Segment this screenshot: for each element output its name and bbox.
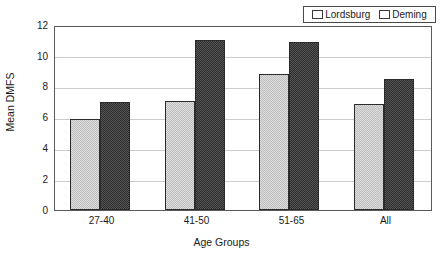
legend-label-lordsburg: Lordsburg xyxy=(325,9,370,20)
plot-area xyxy=(54,26,432,211)
x-tick-41-50: 41-50 xyxy=(149,215,244,226)
y-tick-0: 0 xyxy=(4,206,48,216)
bar-group xyxy=(354,27,414,210)
y-tick-2: 2 xyxy=(4,175,48,185)
y-axis-title: Mean DMFS xyxy=(4,56,16,148)
bar-group xyxy=(70,27,130,210)
bar-group xyxy=(259,27,319,210)
y-tick-12: 12 xyxy=(4,21,48,31)
bar-deming-51-65 xyxy=(289,42,319,210)
legend-item-lordsburg: Lordsburg xyxy=(312,9,370,20)
bar-deming-41-50 xyxy=(195,40,225,210)
legend-item-deming: Deming xyxy=(379,9,426,20)
bar-lordsburg-51-65 xyxy=(259,74,289,210)
legend-swatch-lordsburg xyxy=(312,10,323,19)
bar-lordsburg-27-40 xyxy=(70,119,100,210)
bar-lordsburg-all xyxy=(354,104,384,210)
legend-label-deming: Deming xyxy=(392,9,426,20)
bar-deming-all xyxy=(384,79,414,210)
x-tick-27-40: 27-40 xyxy=(54,215,149,226)
bars-layer xyxy=(55,27,431,210)
bar-deming-27-40 xyxy=(100,102,130,210)
bar-lordsburg-41-50 xyxy=(165,101,195,210)
bar-chart: Lordsburg Deming 12 10 8 6 4 2 0 Mean DM… xyxy=(0,0,443,262)
legend-swatch-deming xyxy=(379,10,390,19)
bar-group xyxy=(165,27,225,210)
x-tick-all: All xyxy=(339,215,432,226)
x-tick-51-65: 51-65 xyxy=(244,215,339,226)
chart-legend: Lordsburg Deming xyxy=(303,6,436,23)
x-axis-title: Age Groups xyxy=(0,236,443,248)
